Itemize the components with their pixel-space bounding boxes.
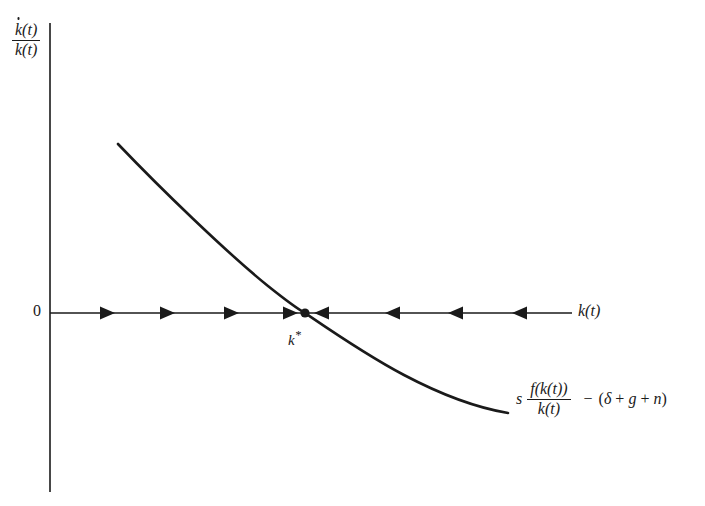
x-axis-label: k(t) (578, 303, 600, 320)
curve-equation-s: s (516, 391, 522, 408)
arrow-right-icon (100, 307, 115, 320)
y-axis-label: k(t) k(t) (12, 22, 40, 59)
curve-equation-denominator: k(t) (527, 400, 570, 418)
plot-canvas (0, 0, 705, 506)
curve-equation-minus: − (584, 390, 593, 407)
steady-state-label-star: * (295, 328, 301, 342)
arrow-left-icon (385, 307, 400, 320)
curve-equation-delta: δ (604, 390, 611, 407)
curve-equation-plus-2: + (640, 390, 649, 407)
curve-equation-tail: −(δ+g+n) (580, 391, 667, 408)
y-axis-numerator-argument: (t) (22, 21, 37, 38)
steady-state-dot (300, 308, 309, 317)
origin-zero-label: 0 (33, 303, 41, 320)
solow-phase-diagram-figure: k(t) k(t) 0 k(t) k* s f(k(t)) k(t) −(δ+g… (0, 0, 705, 506)
steady-state-label-base: k (288, 332, 295, 348)
steady-state-label: k* (288, 329, 301, 349)
y-axis-numerator-variable: k (15, 21, 22, 38)
y-axis-label-numerator: k(t) (12, 22, 40, 41)
arrow-left-icon (512, 307, 527, 320)
k-dot-accent-group: k (15, 22, 22, 39)
curve-equation-plus-1: + (615, 390, 624, 407)
arrow-left-icon (314, 307, 329, 320)
y-axis-label-fraction: k(t) k(t) (12, 22, 40, 59)
dot-accent-icon (17, 17, 20, 20)
curve-equation-fraction: f(k(t)) k(t) (527, 381, 570, 418)
curve-equation-g: g (628, 390, 636, 407)
growth-rate-curve (118, 144, 508, 413)
arrow-right-icon (224, 307, 239, 320)
curve-equation-label: s f(k(t)) k(t) −(δ+g+n) (516, 381, 667, 418)
arrow-left-icon (448, 307, 463, 320)
curve-equation-numerator: f(k(t)) (527, 381, 570, 400)
y-axis-label-denominator: k(t) (12, 41, 40, 59)
curve-equation-paren-close: ) (661, 390, 666, 407)
arrow-right-icon (160, 307, 175, 320)
